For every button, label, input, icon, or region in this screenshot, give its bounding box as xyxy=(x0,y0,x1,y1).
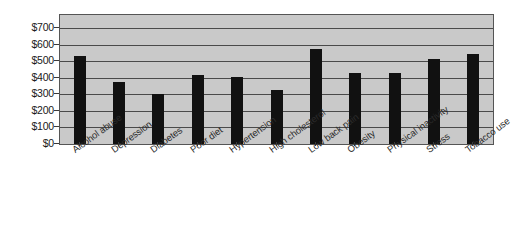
y-axis-tick-label: $200 xyxy=(0,105,54,115)
bar xyxy=(349,73,361,144)
bar xyxy=(389,73,401,144)
bar xyxy=(310,49,322,144)
y-axis-tick-label: $400 xyxy=(0,72,54,82)
y-axis-tick-label: $700 xyxy=(0,22,54,32)
gridline xyxy=(60,28,493,29)
bar xyxy=(467,54,479,144)
gridline xyxy=(60,45,493,46)
y-axis: $0$100$200$300$400$500$600$700 xyxy=(0,0,54,160)
y-axis-tick-label: $500 xyxy=(0,55,54,65)
bar xyxy=(192,75,204,144)
bar xyxy=(428,59,440,144)
y-axis-tick-label: $300 xyxy=(0,88,54,98)
x-axis: Alcohol abuseDepressionDiabetesPoor diet… xyxy=(0,146,504,236)
bar xyxy=(74,56,86,144)
y-axis-tick-label: $100 xyxy=(0,121,54,131)
y-axis-tick-label: $600 xyxy=(0,39,54,49)
